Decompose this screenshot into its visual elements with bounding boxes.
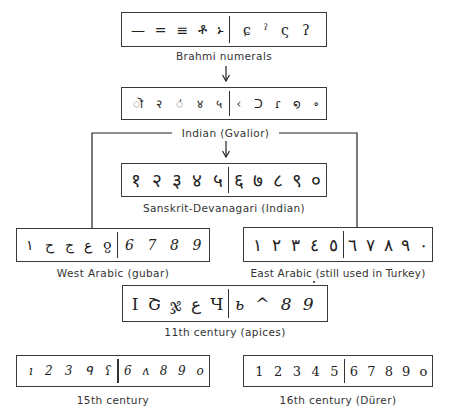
node-sanskrit: १ २ ३ ४ ५ ६ ७ ८ ९ ० — [121, 163, 327, 197]
16th-century-digits-1-5: 1 2 3 4 5 — [244, 356, 344, 386]
label-west-arabic: West Arabic (gubar) — [16, 267, 210, 279]
gvalior-digits-1-5: ॊ २ ऺ ४ ५ — [122, 88, 229, 119]
label-15th-century: 15th century — [16, 394, 210, 406]
apices-digits-1-5: I Շ ჯ ع Ч — [123, 286, 228, 321]
label-east-arabic: East Arabic (still used in Turkey) — [237, 267, 439, 279]
west-arabic-digits-6-9: 6 7 8 9 — [118, 229, 208, 261]
node-west-arabic: ١ ح ج ع ჹ 6 7 8 9 — [16, 228, 210, 262]
node-16th-century: 1 2 3 4 5 6 7 8 9 o — [243, 355, 433, 387]
15th-century-digits-6-0: 6 ʌ 8 9 o — [119, 356, 209, 386]
node-brahmi: — = ≡ ቶ ኑ ɕ ˀ ς ʔ — [121, 12, 327, 47]
node-15th-century: ı 2 3 ᑫ ʕ 6 ʌ 8 9 o — [16, 355, 210, 387]
east-arabic-digits-1-5: ١ ٢ ٣ ٤ ٥ — [244, 228, 343, 261]
node-gvalior: ॊ २ ऺ ४ ५ ‹ ᑐ ɾ ໑ ∘ — [121, 87, 327, 120]
label-apices: 11th century (apices) — [122, 326, 328, 338]
west-arabic-digits-1-5: ١ ح ج ع ჹ — [17, 229, 117, 261]
node-east-arabic: ١ ٢ ٣ ٤ ٥ ٦ ٧ ٨ ٩ ٠ — [243, 227, 433, 262]
label-brahmi: Brahmi numerals — [121, 50, 327, 62]
brahmi-digits-1-5: — = ≡ ቶ ኑ — [122, 13, 229, 46]
sanskrit-digits-6-0: ६ ७ ८ ९ ० — [229, 164, 326, 196]
label-gvalior: Indian (Gvalior) — [172, 127, 279, 139]
node-apices: I Շ ჯ ع Ч ь ^ 8 9 — [122, 285, 328, 322]
label-16th-century: 16th century (Dürer) — [243, 394, 433, 406]
east-arabic-digits-6-0: ٦ ٧ ٨ ٩ ٠ — [344, 228, 432, 261]
label-sanskrit: Sanskrit-Devanagari (Indian) — [121, 202, 327, 214]
sanskrit-digits-1-5: १ २ ३ ४ ५ — [122, 164, 228, 196]
gvalior-digits-6-0: ‹ ᑐ ɾ ໑ ∘ — [230, 88, 325, 119]
16th-century-digits-6-0: 6 7 8 9 o — [345, 356, 432, 386]
apices-digits-6-9: ь ^ 8 9 — [229, 286, 319, 321]
brahmi-digits-6-9: ɕ ˀ ς ʔ — [230, 13, 316, 46]
15th-century-digits-1-5: ı 2 3 ᑫ ʕ — [17, 356, 117, 386]
